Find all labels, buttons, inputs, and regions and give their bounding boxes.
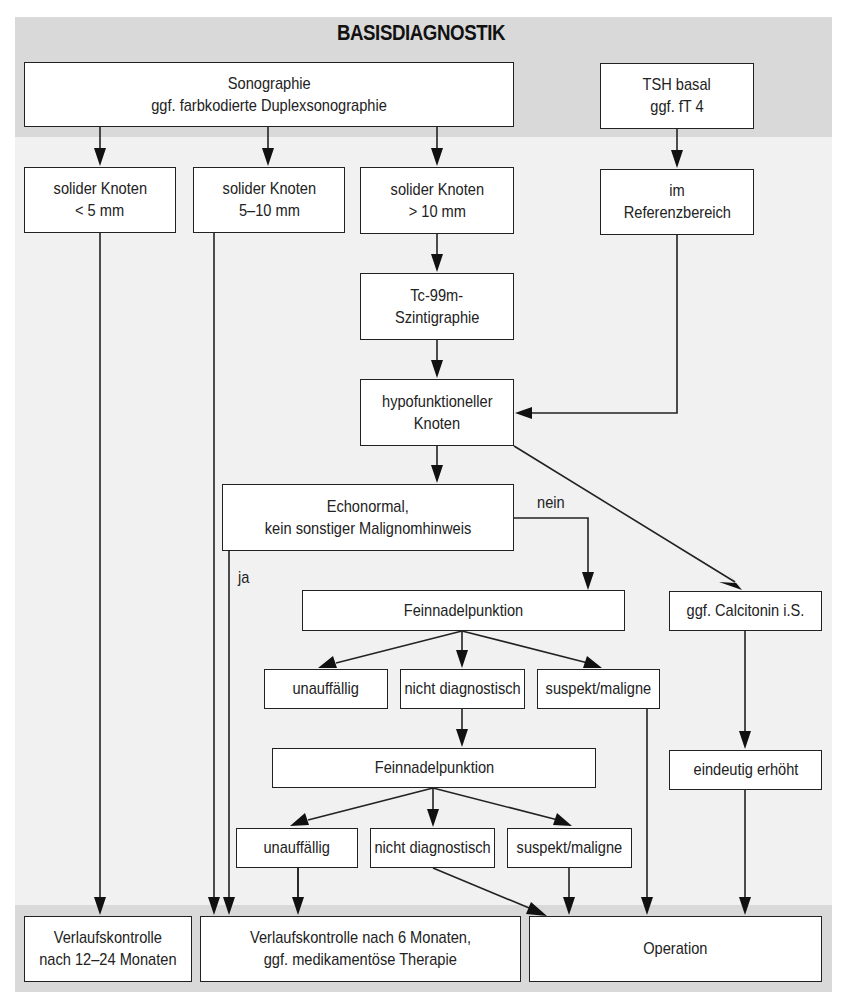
node-text: Verlaufskontrolle nach 6 Monaten,: [250, 927, 471, 949]
node-text: ggf. medikamentöse Therapie: [264, 949, 457, 971]
node-text: im: [669, 180, 684, 202]
node-r1-suspekt-maligne: suspekt/maligne: [537, 669, 660, 709]
node-hypofunktioneller-knoten: hypofunktioneller Knoten: [360, 379, 514, 446]
node-text: Feinnadelpunktion: [374, 757, 493, 779]
node-verlauf-12-24: Verlaufskontrolle nach 12–24 Monaten: [24, 916, 192, 982]
node-text: suspekt/maligne: [517, 837, 623, 859]
node-sonographie: Sonographie ggf. farbkodierte Duplexsono…: [24, 62, 514, 127]
node-text: ggf. Calcitonin i.S.: [687, 600, 805, 622]
node-eindeutig-erhoeht: eindeutig erhöht: [669, 750, 822, 790]
edge-label-ja: ja: [238, 568, 249, 588]
node-verlauf-6: Verlaufskontrolle nach 6 Monaten, ggf. m…: [200, 916, 521, 982]
node-calcitonin: ggf. Calcitonin i.S.: [669, 591, 822, 631]
node-text: hypofunktioneller: [382, 391, 493, 413]
node-r2-suspekt-maligne: suspekt/maligne: [507, 828, 632, 868]
node-text: unauffällig: [293, 678, 359, 700]
node-text: Szintigraphie: [395, 307, 480, 329]
node-text: Referenzbereich: [623, 202, 730, 224]
node-text: Knoten: [414, 413, 460, 435]
node-r2-unauffaellig: unauffällig: [236, 828, 358, 868]
node-text: ggf. fT 4: [650, 96, 703, 118]
node-r2-nicht-diagnostisch: nicht diagnostisch: [370, 828, 495, 868]
node-text: solider Knoten: [390, 179, 483, 201]
node-echonormal: Echonormal, kein sonstiger Malignomhinwe…: [222, 484, 514, 551]
node-referenzbereich: im Referenzbereich: [600, 169, 754, 235]
node-text: Sonographie: [228, 73, 311, 95]
node-text: nicht diagnostisch: [374, 837, 490, 859]
node-text: Operation: [643, 938, 707, 960]
node-text: ggf. farbkodierte Duplexsonographie: [151, 95, 387, 117]
node-text: TSH basal: [643, 74, 711, 96]
node-text: suspekt/maligne: [546, 678, 652, 700]
node-r1-unauffaellig: unauffällig: [264, 669, 388, 709]
node-knoten-lt5: solider Knoten < 5 mm: [24, 167, 176, 233]
node-knoten-5-10: solider Knoten 5–10 mm: [193, 167, 345, 233]
edge-label-nein: nein: [537, 493, 565, 513]
node-text: Echonormal,: [327, 496, 409, 518]
node-text: nach 12–24 Monaten: [39, 949, 176, 971]
node-text: > 10 mm: [408, 201, 465, 223]
node-text: kein sonstiger Malignomhinweis: [265, 518, 471, 540]
node-szintigraphie: Tc-99m- Szintigraphie: [360, 273, 514, 340]
node-text: Tc-99m-: [411, 285, 464, 307]
node-text: solider Knoten: [53, 178, 146, 200]
node-text: eindeutig erhöht: [693, 759, 798, 781]
node-text: Feinnadelpunktion: [404, 600, 523, 622]
node-text: unauffällig: [264, 837, 330, 859]
node-feinnadelpunktion-2: Feinnadelpunktion: [272, 748, 596, 788]
node-text: Verlaufskontrolle: [54, 927, 162, 949]
node-feinnadelpunktion-1: Feinnadelpunktion: [302, 590, 625, 631]
node-text: solider Knoten: [222, 178, 315, 200]
node-r1-nicht-diagnostisch: nicht diagnostisch: [400, 669, 525, 709]
node-text: nicht diagnostisch: [404, 678, 520, 700]
node-operation: Operation: [529, 916, 822, 982]
node-knoten-gt10: solider Knoten > 10 mm: [360, 167, 514, 234]
node-tsh: TSH basal ggf. fT 4: [600, 63, 754, 129]
node-text: 5–10 mm: [239, 200, 300, 222]
diagram-title: BASISDIAGNOSTIK: [63, 20, 779, 46]
node-text: < 5 mm: [75, 200, 124, 222]
